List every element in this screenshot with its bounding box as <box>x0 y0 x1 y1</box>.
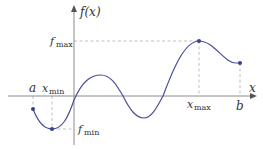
extrema-diagram: f(x) x a b x min x max f max f min <box>0 0 263 149</box>
endpoint-b <box>238 61 242 65</box>
svg-text:f: f <box>49 35 56 48</box>
function-curve <box>33 41 240 129</box>
svg-text:max: max <box>194 103 211 112</box>
svg-text:max: max <box>56 40 73 49</box>
svg-text:min: min <box>49 87 64 96</box>
absolute-max-point <box>197 39 201 43</box>
x-min-label: x min <box>42 82 64 96</box>
b-label: b <box>236 99 244 113</box>
svg-text:min: min <box>84 128 99 137</box>
a-label: a <box>29 81 36 95</box>
f-max-label: f max <box>49 35 73 49</box>
x-max-label: x max <box>187 98 211 112</box>
endpoint-a <box>31 107 35 111</box>
svg-text:x: x <box>42 82 49 95</box>
y-axis-label: f(x) <box>79 5 101 19</box>
y-axis-arrow-icon <box>71 5 77 12</box>
svg-text:f: f <box>77 123 84 136</box>
svg-text:x: x <box>187 98 194 111</box>
x-axis-label: x <box>249 81 256 95</box>
absolute-min-point <box>50 127 54 131</box>
f-min-label: f min <box>77 123 99 137</box>
